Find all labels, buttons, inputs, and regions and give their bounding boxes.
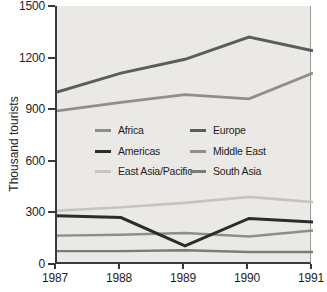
y-tick-label-0: 0 — [11, 258, 45, 270]
legend-swatch-east-asia-pacific — [95, 170, 111, 173]
legend-swatch-south-asia — [190, 170, 206, 173]
legend-item-americas: Americas — [95, 144, 160, 158]
x-tick-mark-1991 — [310, 264, 312, 269]
legend-label-south-asia: South Asia — [213, 165, 261, 177]
plot-area: AfricaAmericasEast Asia/PacificEuropeMid… — [55, 6, 311, 264]
x-tick-label-1990: 1990 — [230, 272, 264, 284]
legend-swatch-americas — [95, 150, 111, 153]
y-tick-label-300: 300 — [11, 206, 45, 218]
legend-item-east-asia-pacific: East Asia/Pacific — [95, 164, 192, 178]
y-tick-label-1500: 1500 — [11, 0, 45, 12]
legend-label-africa: Africa — [118, 124, 144, 136]
legend-item-middle-east: Middle East — [190, 144, 266, 158]
y-tick-label-600: 600 — [11, 155, 45, 167]
x-tick-mark-1987 — [54, 264, 56, 269]
legend-label-europe: Europe — [213, 124, 246, 136]
legend-label-middle-east: Middle East — [213, 145, 266, 157]
legend-swatch-middle-east — [190, 150, 206, 153]
y-tick-mark-600 — [48, 160, 55, 162]
y-tick-mark-300 — [48, 211, 55, 213]
x-tick-label-1991: 1991 — [294, 272, 327, 284]
y-tick-label-1200: 1200 — [11, 52, 45, 64]
x-tick-label-1988: 1988 — [102, 272, 136, 284]
x-tick-mark-1989 — [182, 264, 184, 269]
legend-item-south-asia: South Asia — [190, 164, 261, 178]
y-tick-label-900: 900 — [11, 103, 45, 115]
legend-item-europe: Europe — [190, 123, 246, 137]
legend-label-americas: Americas — [118, 145, 160, 157]
x-tick-label-1989: 1989 — [166, 272, 200, 284]
legend-item-africa: Africa — [95, 123, 144, 137]
x-tick-mark-1988 — [118, 264, 120, 269]
legend: AfricaAmericasEast Asia/PacificEuropeMid… — [57, 6, 310, 262]
legend-swatch-africa — [95, 129, 111, 132]
tourism-line-chart: Thousand tourists AfricaAmericasEast Asi… — [0, 0, 327, 292]
legend-label-east-asia-pacific: East Asia/Pacific — [118, 165, 192, 177]
x-tick-label-1987: 1987 — [38, 272, 72, 284]
legend-swatch-europe — [190, 129, 206, 132]
y-tick-mark-1500 — [48, 5, 55, 7]
y-tick-mark-900 — [48, 108, 55, 110]
y-tick-mark-1200 — [48, 57, 55, 59]
x-tick-mark-1990 — [246, 264, 248, 269]
